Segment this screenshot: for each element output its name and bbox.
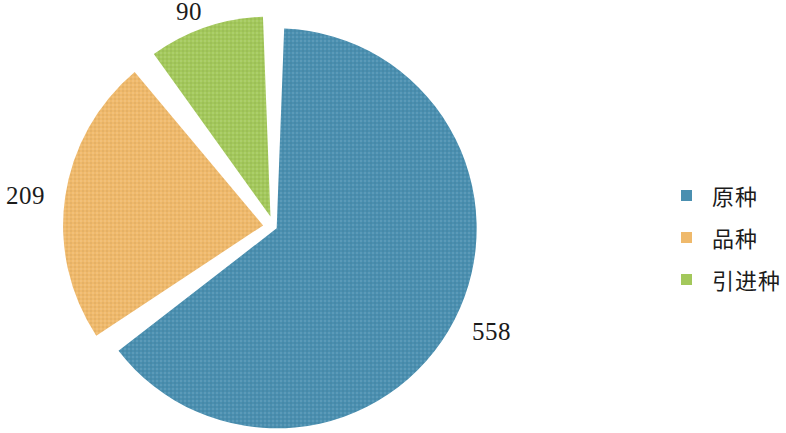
- pie-chart-plot-area: 90 209 558: [0, 0, 560, 433]
- chart-legend: 原种 品种 引进种: [681, 174, 786, 300]
- legend-item-yinjinzhong[interactable]: 引进种: [681, 258, 786, 300]
- legend-item-pinzhong[interactable]: 品种: [681, 216, 786, 258]
- legend-label-yinjinzhong: 引进种: [712, 263, 781, 295]
- data-label-green-value: 90: [176, 0, 202, 26]
- pie-chart-svg: [0, 0, 560, 433]
- legend-label-pinzhong: 品种: [712, 221, 758, 253]
- legend-swatch-icon-yuanzhong: [681, 190, 692, 201]
- legend-swatch-icon-yinjinzhong: [681, 274, 692, 285]
- data-label-orange-value: 209: [6, 182, 45, 210]
- data-label-blue-value: 558: [472, 318, 511, 346]
- legend-label-yuanzhong: 原种: [712, 179, 758, 211]
- legend-swatch-icon-pinzhong: [681, 232, 692, 243]
- pie-chart-figure: 90 209 558 原种 品种 引进种: [0, 0, 786, 433]
- legend-item-yuanzhong[interactable]: 原种: [681, 174, 786, 216]
